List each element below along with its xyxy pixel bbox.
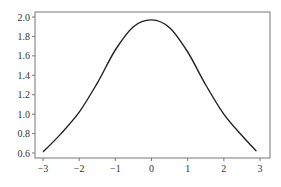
y-tick-label: 1.2 [18,89,31,100]
y-tick-label: 1.4 [18,70,31,81]
x-tick-label: 0 [149,163,154,174]
data-line [43,20,256,152]
x-tick-label: 1 [185,163,190,174]
y-tick-label: 2.0 [18,12,31,23]
x-tick-label: 3 [258,163,263,174]
y-tick-label: 0.8 [18,128,31,139]
y-tick-label: 0.6 [18,148,31,159]
y-tick-label: 1.0 [18,109,31,120]
x-axis: −3−2−10123 [38,158,263,174]
y-axis: 0.60.81.01.21.41.61.82.0 [18,12,36,159]
x-tick-label: −3 [38,163,49,174]
plot-frame [35,12,270,158]
x-tick-label: 2 [221,163,226,174]
y-tick-label: 1.6 [18,50,31,61]
y-tick-label: 1.8 [18,31,31,42]
x-tick-label: −1 [110,163,121,174]
x-tick-label: −2 [74,163,85,174]
line-chart: 0.60.81.01.21.41.61.82.0 −3−2−10123 [0,0,281,187]
